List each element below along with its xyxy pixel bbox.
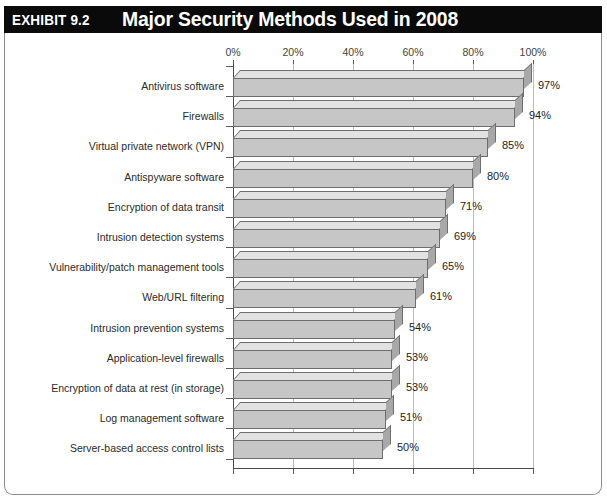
exhibit-title: Major Security Methods Used in 2008 <box>122 8 458 31</box>
exhibit-figure: EXHIBIT 9.2 Major Security Methods Used … <box>0 0 607 500</box>
exhibit-number-label: EXHIBIT 9.2 <box>12 12 90 28</box>
chart-panel <box>4 33 602 495</box>
exhibit-header-bar: EXHIBIT 9.2 Major Security Methods Used … <box>4 6 602 33</box>
